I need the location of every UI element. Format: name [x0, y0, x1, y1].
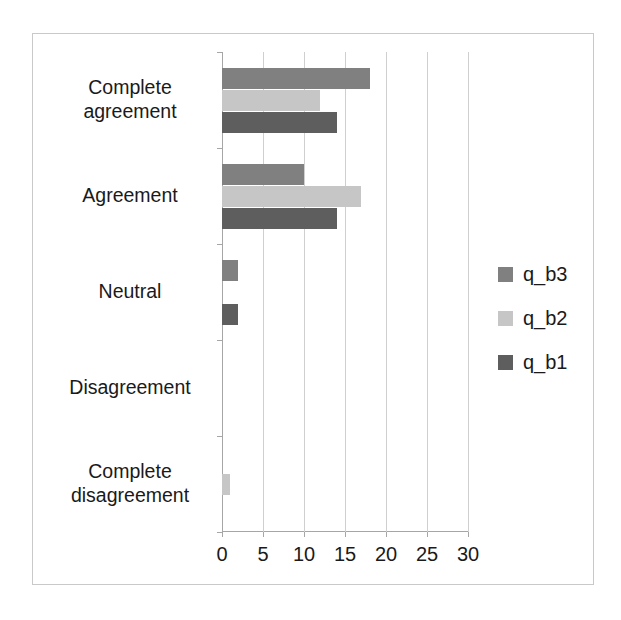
bar-q_b3 [222, 68, 370, 89]
gridline [345, 52, 346, 532]
bar-q_b3 [222, 260, 238, 281]
legend-item: q_b2 [498, 296, 593, 340]
x-axis-tick [263, 532, 264, 537]
bar-q_b1 [222, 304, 238, 325]
x-axis-label: 0 [216, 543, 227, 566]
bar-q_b3 [222, 164, 304, 185]
chart-legend: q_b3q_b2q_b1 [498, 252, 593, 384]
y-axis-tick [217, 148, 222, 149]
plot-area: Complete agreementAgreementNeutralDisagr… [222, 52, 468, 532]
bar-q_b1 [222, 208, 337, 229]
legend-item: q_b1 [498, 340, 593, 384]
bar-q_b2 [222, 186, 361, 207]
x-axis-label: 30 [457, 543, 479, 566]
gridline [427, 52, 428, 532]
bar-q_b2 [222, 474, 230, 495]
legend-swatch-icon [498, 267, 513, 282]
x-axis-label: 25 [416, 543, 438, 566]
x-axis-tick [222, 532, 223, 537]
category-label: Complete agreement [50, 76, 210, 124]
legend-label: q_b1 [523, 351, 568, 374]
category-label: Complete disagreement [50, 460, 210, 508]
x-axis-tick [468, 532, 469, 537]
x-axis-tick [304, 532, 305, 537]
bar-q_b2 [222, 90, 320, 111]
x-axis-tick [386, 532, 387, 537]
chart-figure-frame: Complete agreementAgreementNeutralDisagr… [32, 33, 594, 585]
legend-label: q_b2 [523, 307, 568, 330]
category-label: Neutral [50, 280, 210, 304]
bar-q_b1 [222, 112, 337, 133]
legend-swatch-icon [498, 355, 513, 370]
x-axis-label: 20 [375, 543, 397, 566]
x-axis-label: 10 [293, 543, 315, 566]
y-axis-tick [217, 340, 222, 341]
gridline [386, 52, 387, 532]
legend-item: q_b3 [498, 252, 593, 296]
x-axis-label: 5 [257, 543, 268, 566]
x-axis-tick [427, 532, 428, 537]
legend-label: q_b3 [523, 263, 568, 286]
x-axis-label: 15 [334, 543, 356, 566]
category-label: Disagreement [50, 376, 210, 400]
x-axis-tick [345, 532, 346, 537]
y-axis-tick [217, 436, 222, 437]
y-axis-tick [217, 52, 222, 53]
gridline [468, 52, 469, 532]
legend-swatch-icon [498, 311, 513, 326]
category-label: Agreement [50, 184, 210, 208]
y-axis-tick [217, 244, 222, 245]
